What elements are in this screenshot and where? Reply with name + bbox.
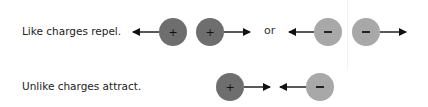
svg-text:+: + xyxy=(205,26,214,39)
svg-text:+: + xyxy=(225,81,234,94)
charges-diagram: + + + xyxy=(0,0,428,107)
svg-text:+: + xyxy=(168,26,177,39)
